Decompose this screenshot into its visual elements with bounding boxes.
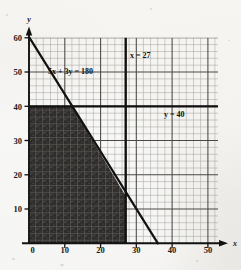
scanned-figure: 60 50 40 30 20 10 0 10 20 30 40 50 y x 5… (0, 0, 241, 270)
x-tick-labels: 0 10 20 30 40 50 (30, 245, 212, 255)
annotation-vertical-line-equation: x = 27 (130, 51, 151, 60)
annotation-diagonal-equation: 5x + 3y = 180 (48, 67, 93, 76)
annotation-horizontal-line-equation: y = 40 (164, 110, 185, 119)
y-tick-label-10: 10 (14, 204, 23, 214)
y-axis-label: y (26, 15, 31, 24)
graph-canvas: 60 50 40 30 20 10 0 10 20 30 40 50 y x 5… (0, 0, 241, 270)
y-tick-label-60: 60 (14, 33, 23, 43)
y-tick-label-50: 50 (14, 67, 23, 77)
x-tick-label-0: 0 (30, 245, 34, 255)
x-tick-label-10: 10 (61, 245, 70, 255)
y-tick-label-20: 20 (14, 170, 23, 180)
x-tick-label-30: 30 (132, 245, 141, 255)
x-axis-label: x (232, 239, 237, 248)
y-tick-label-30: 30 (14, 136, 23, 146)
x-tick-label-50: 50 (204, 245, 213, 255)
x-tick-label-20: 20 (96, 245, 105, 255)
x-tick-label-40: 40 (168, 245, 177, 255)
y-tick-label-40: 40 (14, 102, 23, 112)
y-tick-labels: 60 50 40 30 20 10 (14, 33, 23, 214)
